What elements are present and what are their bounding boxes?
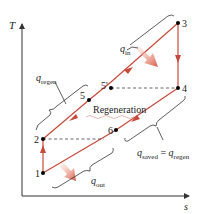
arrow-heating <box>124 67 133 74</box>
point-4-label: 4 <box>182 83 187 94</box>
q-out-label: qout <box>91 175 105 189</box>
point-3-label: 3 <box>182 18 187 29</box>
regeneration-label: Regeneration <box>93 104 146 115</box>
regeneration-wavy-line <box>86 116 134 119</box>
heat-in-arrow-icon <box>135 45 158 67</box>
point-2-label: 2 <box>34 134 39 145</box>
point-5 <box>87 98 91 102</box>
point-3 <box>176 21 180 25</box>
t-axis-label: T <box>9 19 16 31</box>
arrow-down-3-4 <box>175 55 181 63</box>
point-6 <box>114 128 118 132</box>
point-1-label: 1 <box>35 168 40 179</box>
leader-q-regen <box>55 82 66 104</box>
ts-diagram: T s <box>0 0 206 214</box>
point-5-prime-label: 5' <box>101 80 108 91</box>
heat-out-arrow-icon <box>59 162 76 181</box>
point-6-label: 6 <box>108 125 113 136</box>
s-axis-label: s <box>184 201 188 212</box>
q-in-label: qin <box>120 43 131 57</box>
point-2 <box>41 137 45 141</box>
q-regen-label: qregen <box>36 72 57 86</box>
braces <box>36 15 185 188</box>
leader-q-saved <box>157 127 163 140</box>
point-4 <box>176 86 180 90</box>
q-saved-label: qsaved = qregen <box>137 147 190 161</box>
point-1 <box>41 171 45 175</box>
point-5-prime <box>109 86 113 90</box>
arrow-up-1-2 <box>40 145 46 153</box>
point-5-label: 5 <box>80 90 85 101</box>
heat-labels: qin qregen Regeneration qsaved = qregen … <box>36 43 190 189</box>
